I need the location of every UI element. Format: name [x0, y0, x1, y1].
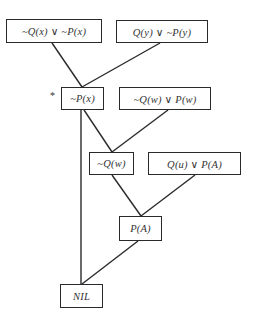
clause-node-c3: ~Q(w) ∨ P(w) — [119, 87, 211, 110]
clause-label: NIL — [73, 291, 90, 302]
edge-c4-to-r3 — [141, 175, 195, 216]
clause-node-c2: Q(y) ∨ ~P(y) — [116, 20, 208, 43]
edge-r3-to-nil — [82, 241, 138, 284]
clause-node-r1: ~P(x) — [61, 87, 104, 110]
edge-r2-to-r3 — [112, 175, 141, 216]
clause-node-c4: Q(u) ∨ P(A) — [148, 152, 241, 175]
asterisk-marker: * — [50, 90, 55, 101]
edge-c2-to-r1 — [82, 43, 160, 87]
clause-node-r2: ~Q(w) — [89, 152, 134, 175]
clause-label: Q(u) ∨ P(A) — [167, 158, 222, 170]
edge-c3-to-r2 — [112, 110, 168, 152]
clause-label: ~Q(w) ∨ P(w) — [133, 93, 196, 105]
clause-node-nil: NIL — [60, 284, 103, 308]
clause-label: ~Q(w) — [97, 158, 125, 169]
clause-label: ~P(x) — [70, 93, 95, 104]
edge-r1-to-r2 — [84, 110, 112, 152]
clause-label: ~Q(x) ∨ ~P(x) — [22, 25, 86, 37]
clause-label: P(A) — [130, 223, 151, 234]
clause-label: Q(y) ∨ ~P(y) — [133, 26, 191, 38]
edge-c1-to-r1 — [52, 43, 82, 87]
clause-node-r3: P(A) — [119, 216, 162, 241]
clause-node-c1: ~Q(x) ∨ ~P(x) — [6, 19, 102, 43]
